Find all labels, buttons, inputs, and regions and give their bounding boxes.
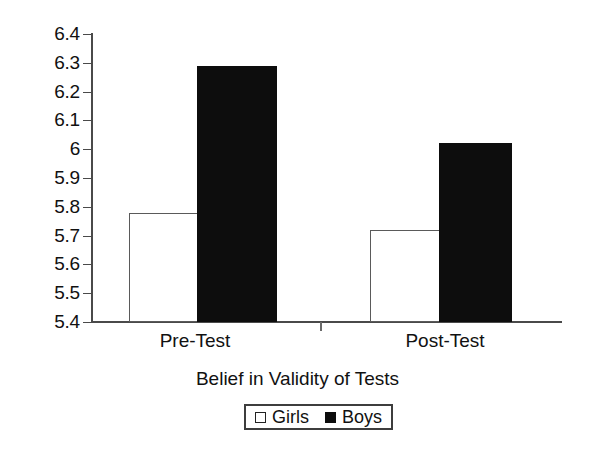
y-tick-label: 5.4 [2, 312, 80, 331]
x-category-label-post-test: Post-Test [370, 330, 520, 352]
bar-boys-pre-test[interactable] [197, 66, 277, 322]
y-tick-label: 5.7 [2, 226, 80, 245]
bar-girls-post-test[interactable] [370, 230, 440, 322]
legend-swatch-filled-icon [325, 412, 336, 423]
y-tick-label: 5.6 [2, 254, 80, 273]
legend-item-boys[interactable]: Boys [325, 408, 382, 426]
x-category-label-pre-test: Pre-Test [120, 330, 270, 352]
y-tick-label: 5.9 [2, 168, 80, 187]
y-tick-label: 6.2 [2, 82, 80, 101]
y-tick-label: 6.3 [2, 53, 80, 72]
plot-area [92, 34, 561, 322]
y-tick-label: 6.4 [2, 24, 80, 43]
legend-swatch-open-icon [255, 412, 266, 423]
y-tick-label: 6.1 [2, 110, 80, 129]
legend-label-boys: Boys [342, 408, 382, 426]
bar-girls-pre-test[interactable] [129, 213, 198, 322]
legend-item-girls[interactable]: Girls [255, 408, 309, 426]
chart-figure: 6.4 6.3 6.2 6.1 6 5.9 5.8 5.7 5.6 5.5 5. [0, 0, 595, 457]
y-tick-label: 5.5 [2, 283, 80, 302]
y-tick-label: 5.8 [2, 197, 80, 216]
chart-legend: Girls Boys [244, 404, 393, 430]
legend-label-girls: Girls [272, 408, 309, 426]
bar-boys-post-test[interactable] [439, 143, 512, 322]
x-axis-title: Belief in Validity of Tests [0, 368, 595, 390]
x-axis-mid-tick [320, 322, 322, 331]
y-tick-label: 6 [2, 139, 80, 158]
